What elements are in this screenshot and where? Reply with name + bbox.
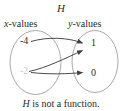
range-element-0: 0 xyxy=(91,68,96,78)
range-element-1: 1 xyxy=(91,38,96,48)
mapping-diagram-figure: H x-values y-values -4 -2 1 0 H is not a… xyxy=(0,0,122,111)
domain-element-neg4: -4 xyxy=(20,36,28,46)
arrow-neg2-to-0 xyxy=(31,73,83,74)
arrow-neg4-to-1 xyxy=(31,38,83,43)
caption-text: is not a function. xyxy=(30,98,100,109)
domain-element-neg2: -2 xyxy=(20,66,28,76)
figure-caption: H is not a function. xyxy=(0,99,122,109)
diagram-canvas xyxy=(0,0,122,111)
caption-relation-name: H xyxy=(23,98,30,109)
arrow-neg2-to-1 xyxy=(29,51,83,72)
